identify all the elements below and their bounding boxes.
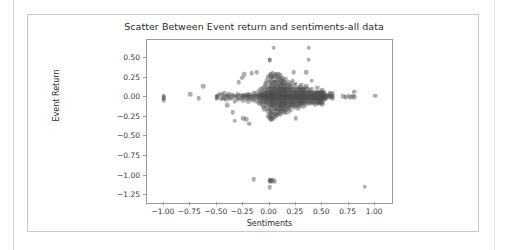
- scatter-point: [201, 84, 206, 89]
- scatter-point: [352, 95, 357, 100]
- x-tick-label: 0.75: [339, 207, 356, 216]
- scatter-point: [304, 70, 309, 75]
- y-tick-label: 0.25: [102, 72, 140, 81]
- scatter-point: [331, 96, 336, 101]
- scatter-points-layer: [147, 40, 392, 203]
- scatter-point: [225, 103, 230, 108]
- scatter-point: [162, 98, 167, 103]
- scatter-point: [196, 96, 201, 101]
- scatter-point: [188, 92, 193, 97]
- x-tick-mark: [374, 202, 375, 205]
- y-tick-mark: [143, 116, 146, 117]
- y-tick-label: 0.50: [102, 53, 140, 62]
- scatter-point: [309, 78, 314, 83]
- scatter-point: [232, 118, 237, 123]
- y-tick-mark: [143, 175, 146, 176]
- x-tick-label: 0.00: [260, 207, 277, 216]
- x-tick-label: −0.50: [204, 207, 227, 216]
- scatter-point: [362, 184, 367, 189]
- y-tick-mark: [143, 77, 146, 78]
- scatter-point: [249, 71, 254, 76]
- scatter-point: [237, 80, 242, 85]
- y-tick-mark: [143, 194, 146, 195]
- y-tick-label: −0.50: [102, 131, 140, 140]
- scatter-point: [271, 46, 276, 51]
- y-tick-label: −1.25: [102, 190, 140, 199]
- y-axis-label: Event Return: [52, 46, 61, 146]
- x-tick-label: −0.75: [178, 207, 201, 216]
- chart-title: Scatter Between Event return and sentime…: [28, 21, 480, 32]
- scatter-point: [267, 185, 272, 190]
- x-tick-mark: [163, 202, 164, 205]
- scatter-point: [373, 93, 378, 98]
- y-tick-label: −1.00: [102, 170, 140, 179]
- figure-card: Scatter Between Event return and sentime…: [27, 14, 479, 232]
- y-tick-label: 0.00: [102, 92, 140, 101]
- y-tick-mark: [143, 96, 146, 97]
- scatter-point: [291, 70, 296, 75]
- scatter-point: [272, 179, 277, 184]
- y-tick-label: −0.25: [102, 111, 140, 120]
- x-tick-mark: [216, 202, 217, 205]
- scatter-point: [352, 89, 357, 94]
- page-margin-rule-right: [494, 0, 495, 250]
- scatter-point: [242, 72, 247, 77]
- x-tick-mark: [321, 202, 322, 205]
- scatter-point: [320, 102, 325, 107]
- scatter-point: [267, 57, 272, 62]
- page-margin-rule: [13, 0, 14, 250]
- x-tick-mark: [348, 202, 349, 205]
- x-tick-mark: [189, 202, 190, 205]
- x-tick-label: −0.25: [231, 207, 254, 216]
- y-tick-label: −0.75: [102, 150, 140, 159]
- scatter-point: [251, 177, 256, 182]
- scatter-figure: Scatter Between Event return and sentime…: [28, 15, 480, 233]
- x-tick-mark: [269, 202, 270, 205]
- scatter-point: [306, 57, 311, 62]
- plot-axes-frame: [146, 39, 393, 204]
- x-tick-mark: [295, 202, 296, 205]
- scatter-point: [230, 110, 235, 115]
- scatter-point: [247, 122, 252, 127]
- x-tick-label: 0.50: [313, 207, 330, 216]
- y-tick-mark: [143, 155, 146, 156]
- y-tick-mark: [143, 57, 146, 58]
- scatter-point: [306, 46, 311, 51]
- y-tick-mark: [143, 135, 146, 136]
- x-tick-label: −1.00: [151, 207, 174, 216]
- x-tick-label: 1.00: [366, 207, 383, 216]
- x-tick-mark: [242, 202, 243, 205]
- scatter-point: [294, 116, 299, 121]
- x-tick-label: 0.25: [287, 207, 304, 216]
- x-axis-label: Sentiments: [146, 219, 393, 228]
- scatter-point: [255, 70, 260, 75]
